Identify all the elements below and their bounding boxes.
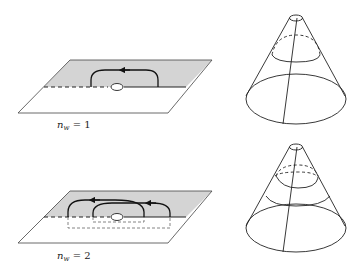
cone-ring-2-front — [266, 196, 330, 206]
cone-nw2 — [246, 144, 346, 252]
cone-apex-ellipse — [290, 144, 303, 150]
plane-nw2 — [18, 191, 212, 243]
diagram-canvas — [0, 0, 362, 269]
cone-ring-1-front — [276, 176, 318, 188]
cone-middle-ring-front — [272, 55, 320, 62]
cone-nw1 — [246, 15, 346, 124]
cone-side-right — [303, 18, 346, 96]
winding-number-label-1: nw = 1 — [57, 119, 91, 132]
label-eq: = — [69, 250, 84, 261]
label-eq: = — [69, 119, 84, 130]
puncture-hole — [111, 214, 123, 221]
shaded-half-plane — [44, 191, 212, 217]
puncture-hole — [111, 84, 123, 91]
winding-number-label-2: nw = 2 — [57, 250, 91, 263]
cone-side-left — [246, 147, 290, 226]
cone-base-ellipse — [246, 74, 346, 124]
cone-seam — [283, 18, 297, 124]
plane-nw1 — [18, 60, 212, 113]
cone-middle-ring-back — [272, 35, 320, 55]
cone-apex-ellipse — [290, 15, 303, 21]
cone-ring-2-back — [275, 172, 318, 178]
cone-base-ellipse — [246, 204, 346, 252]
cone-side-left — [246, 18, 290, 96]
cone-seam — [283, 147, 297, 252]
shaded-half-plane — [44, 60, 212, 87]
label-val: 1 — [84, 119, 90, 130]
label-val: 2 — [84, 250, 90, 261]
cone-ring-1-back — [276, 165, 318, 176]
